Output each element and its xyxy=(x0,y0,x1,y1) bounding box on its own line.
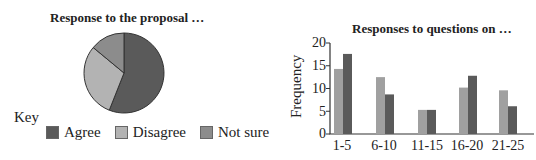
legend-swatch-disagree xyxy=(115,126,128,139)
legend-label: Disagree xyxy=(133,124,186,141)
pie-chart-title: Response to the proposal … xyxy=(50,10,204,26)
bar-11-15-series-1 xyxy=(418,110,427,134)
x-tick: 16-20 xyxy=(447,138,487,154)
bar-chart-title: Responses to questions on … xyxy=(352,21,512,37)
bar-11-15-series-2 xyxy=(427,110,436,134)
bar-16-20-series-1 xyxy=(459,88,468,134)
bar-1-5-series-1 xyxy=(334,69,343,134)
x-tick: 11-15 xyxy=(407,138,447,154)
y-tick: 5 xyxy=(304,104,326,120)
legend-label: Not sure xyxy=(218,124,269,141)
bar-21-25-series-1 xyxy=(499,90,508,134)
bar-1-5-series-2 xyxy=(343,54,352,134)
y-axis-label: Frequency xyxy=(288,55,305,118)
legend-swatch-agree xyxy=(46,126,59,139)
y-tick: 10 xyxy=(304,81,326,97)
pie-legend: Agree Disagree Not sure xyxy=(46,124,283,141)
x-tick: 21-25 xyxy=(488,138,528,154)
bar-16-20-series-2 xyxy=(468,76,477,134)
x-tick: 6-10 xyxy=(364,138,404,154)
legend-label: Agree xyxy=(64,124,101,141)
y-tick: 15 xyxy=(304,58,326,74)
legend-item-not-sure: Not sure xyxy=(200,124,269,141)
bar-chart-plot xyxy=(326,40,536,140)
legend-swatch-not-sure xyxy=(200,126,213,139)
bar-6-10-series-1 xyxy=(376,77,385,134)
legend-item-disagree: Disagree xyxy=(115,124,186,141)
bar-21-25-series-2 xyxy=(508,106,517,134)
legend-key-label: Key xyxy=(14,109,39,126)
x-tick: 1-5 xyxy=(322,138,362,154)
y-tick: 20 xyxy=(304,35,326,51)
legend-item-agree: Agree xyxy=(46,124,101,141)
pie-chart xyxy=(82,31,166,115)
bar-6-10-series-2 xyxy=(385,94,394,134)
